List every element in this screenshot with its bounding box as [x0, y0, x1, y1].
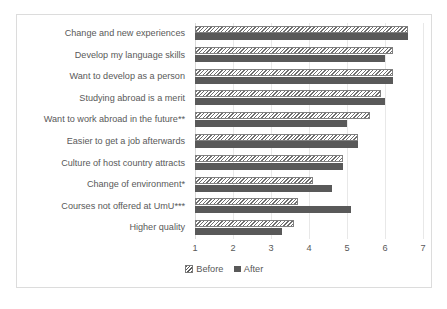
value-tick-label: 7 — [420, 241, 425, 255]
category-label: Want to develop as a person — [70, 66, 185, 88]
hatched-square-icon — [185, 265, 194, 274]
bar-group — [195, 174, 423, 196]
legend-item[interactable]: Before — [185, 264, 224, 274]
solid-square-icon — [234, 266, 241, 273]
legend-label: After — [244, 264, 263, 274]
plot-area — [195, 23, 423, 239]
bar-before — [195, 90, 381, 97]
bar-after — [195, 206, 351, 213]
bar-after — [195, 55, 385, 62]
bar-after — [195, 185, 332, 192]
bar-group — [195, 109, 423, 131]
chart-container: Change and new experiencesDevelop my lan… — [16, 14, 432, 288]
value-tick-label: 5 — [344, 241, 349, 255]
category-label: Easier to get a job afterwards — [67, 131, 185, 153]
category-axis-labels: Change and new experiencesDevelop my lan… — [17, 23, 191, 239]
category-label: Want to work abroad in the future** — [44, 109, 185, 131]
value-tick-label: 1 — [192, 241, 197, 255]
category-label: Change and new experiences — [65, 23, 185, 45]
bar-before — [195, 198, 298, 205]
bar-before — [195, 47, 393, 54]
bar-group — [195, 217, 423, 239]
bar-group — [195, 153, 423, 175]
bar-group — [195, 66, 423, 88]
category-label: Courses not offered at UmU*** — [61, 196, 185, 218]
bar-before — [195, 177, 313, 184]
bar-group — [195, 131, 423, 153]
category-label: Change of environment* — [87, 174, 185, 196]
bar-group — [195, 196, 423, 218]
bar-after — [195, 98, 385, 105]
legend-label: Before — [196, 264, 223, 274]
bar-before — [195, 112, 370, 119]
bar-before — [195, 26, 408, 33]
bar-after — [195, 228, 282, 235]
value-axis-labels: 1234567 — [195, 241, 423, 257]
chart-legend: BeforeAfter — [17, 261, 431, 277]
gridline — [423, 23, 424, 239]
value-tick-label: 2 — [230, 241, 235, 255]
bar-after — [195, 141, 358, 148]
value-tick-label: 6 — [382, 241, 387, 255]
bar-before — [195, 155, 343, 162]
bar-before — [195, 134, 358, 141]
chart-plot-wrapper: Change and new experiencesDevelop my lan… — [17, 15, 431, 287]
bar-after — [195, 77, 393, 84]
value-tick-label: 3 — [268, 241, 273, 255]
category-label: Develop my language skills — [75, 45, 185, 67]
bar-before — [195, 220, 294, 227]
category-label: Higher quality — [129, 217, 185, 239]
bar-group — [195, 23, 423, 45]
category-label: Studying abroad is a merit — [79, 88, 185, 110]
bar-before — [195, 69, 393, 76]
bar-group — [195, 45, 423, 67]
bar-group — [195, 88, 423, 110]
category-label: Culture of host country attracts — [61, 153, 185, 175]
bar-after — [195, 120, 347, 127]
value-tick-label: 4 — [306, 241, 311, 255]
bar-after — [195, 33, 408, 40]
bar-after — [195, 163, 343, 170]
legend-item[interactable]: After — [234, 264, 263, 274]
